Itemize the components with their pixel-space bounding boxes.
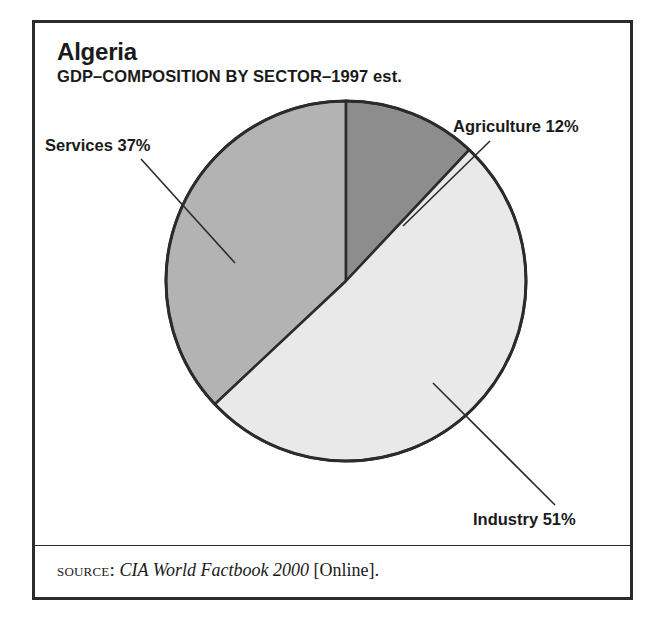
source-publication: CIA World Factbook 2000: [119, 560, 309, 580]
source-label: source:: [57, 559, 115, 580]
leader-line-industry: [433, 383, 555, 505]
source-suffix: [Online].: [313, 560, 378, 580]
pie-chart: Services 37% Agriculture 12% Industry 51…: [35, 23, 630, 597]
pie-label-agriculture: Agriculture 12%: [453, 117, 579, 136]
source-note: source: CIA World Factbook 2000 [Online]…: [57, 559, 379, 581]
pie-label-industry: Industry 51%: [473, 510, 576, 529]
source-divider: [35, 545, 630, 546]
pie-label-services: Services 37%: [45, 136, 151, 155]
chart-figure-frame: Algeria GDP–COMPOSITION BY SECTOR–1997 e…: [32, 20, 633, 600]
